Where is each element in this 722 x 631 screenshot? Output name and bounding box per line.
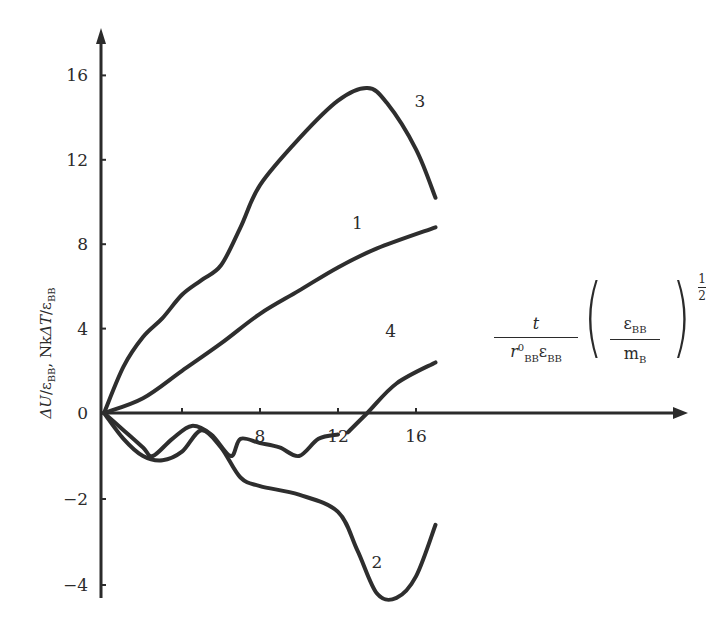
x-label-m-sub: B xyxy=(639,354,646,365)
x-tick-label: 16 xyxy=(405,426,427,446)
y-tick-label: 16 xyxy=(66,65,88,85)
x-label-exponent: 1 2 xyxy=(698,272,706,303)
x-label-r-sup: 0 xyxy=(518,342,524,353)
curves xyxy=(104,88,436,600)
x-label-eps-den: ε xyxy=(539,342,547,361)
x-label-eps-num: ε xyxy=(624,314,632,333)
x-label-r-sub: BB xyxy=(524,353,539,364)
x-label-r: r xyxy=(510,342,518,361)
y-label-sub-1: BB xyxy=(46,368,57,383)
x-axis-arrow-icon xyxy=(673,407,688,419)
curve-label-2: 2 xyxy=(372,552,383,572)
left-paren: ( xyxy=(584,272,603,360)
x-label-fraction-1: t r0BBεBB xyxy=(494,314,578,364)
curve-2 xyxy=(104,413,436,600)
curve-label-1: 1 xyxy=(352,213,363,233)
x-label-eps-den-sub: BB xyxy=(547,353,562,364)
curve-label-3: 3 xyxy=(414,91,425,111)
y-label-delta-t: ΔT xyxy=(37,315,55,336)
ticks: 812161612840−2−4 xyxy=(63,65,427,595)
y-axis-label: ΔU/εBB, NkΔT/εBB xyxy=(37,287,57,418)
curve-label-4: 4 xyxy=(385,321,396,341)
x-label-fraction-2: εBB mB xyxy=(610,314,660,365)
y-tick-label: −4 xyxy=(63,575,88,595)
curve-labels: 1234 xyxy=(352,91,425,572)
y-axis-arrow-icon xyxy=(96,28,106,44)
y-label-sub-2: BB xyxy=(46,287,57,302)
curve-3 xyxy=(104,88,436,413)
y-tick-label: 8 xyxy=(77,234,88,254)
right-paren: ) xyxy=(672,272,691,360)
exp-num: 1 xyxy=(698,272,706,286)
x-label-eps-num-sub: BB xyxy=(632,324,647,335)
exp-bar xyxy=(698,287,706,288)
exp-den: 2 xyxy=(698,289,706,303)
y-tick-label: 0 xyxy=(77,403,88,423)
y-label-eps-2: ε xyxy=(37,302,55,310)
y-label-sep: , Nk xyxy=(37,336,55,368)
y-tick-label: 4 xyxy=(77,319,88,339)
y-tick-label: 12 xyxy=(66,150,88,170)
x-label-t: t xyxy=(533,314,539,333)
y-tick-label: −2 xyxy=(63,489,88,509)
y-label-eps-1: ε xyxy=(37,382,55,390)
x-axis-label: t r0BBεBB ( εBB mB ) 1 2 xyxy=(494,270,719,400)
curve-4 xyxy=(104,362,436,456)
x-label-m: m xyxy=(624,344,639,363)
y-label-delta-u: ΔU xyxy=(37,395,55,418)
